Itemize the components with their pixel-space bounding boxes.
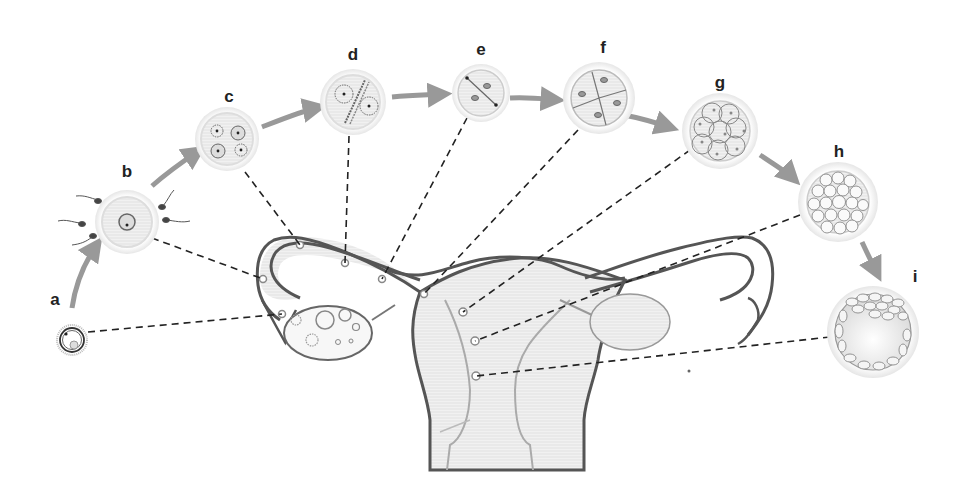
stage-a-oocyte [57, 325, 87, 355]
stage-g-8cell [682, 93, 758, 169]
stage-d-spindle [320, 69, 386, 135]
stage-i-blastocyst [827, 286, 919, 378]
label-stage-e: e [476, 40, 485, 60]
label-stage-h: h [834, 142, 844, 162]
stage-h-morula [798, 162, 878, 242]
stage-f-4cell [563, 62, 635, 134]
stage-c-pronuclei [195, 107, 259, 171]
uterus [257, 237, 772, 470]
label-stage-g: g [715, 73, 725, 93]
label-stage-c: c [224, 87, 233, 107]
diagram-canvas [0, 0, 967, 499]
left-ovary [284, 306, 372, 360]
stage-b-fertilization [58, 190, 190, 254]
label-stage-i: i [913, 267, 918, 287]
stage-e-2cell [452, 64, 510, 122]
label-stage-f: f [600, 38, 606, 58]
label-stage-a: a [50, 290, 59, 310]
label-stage-b: b [122, 162, 132, 182]
speck [688, 370, 691, 373]
label-stage-d: d [348, 45, 358, 65]
right-ovary [590, 294, 670, 350]
